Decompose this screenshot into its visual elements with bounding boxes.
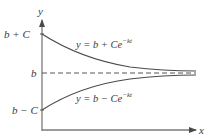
lower-equation-exponent: −kt [122,91,133,99]
label-b: b [31,67,37,79]
y-axis-label: y [37,5,43,17]
label-b-minus-c: b − C [12,104,38,116]
x-axis-label: x [198,124,204,136]
lower-curve-equation: y = b − Ce−kt [75,91,133,104]
exponential-approach-diagram: y x b + C b b − C y = b + Ce−kt y = b − … [0,0,208,139]
label-b-plus-c: b + C [4,28,30,40]
upper-equation-base: y = b + Ce [75,39,123,50]
lower-equation-base: y = b − Ce [75,93,123,104]
upper-curve-equation: y = b + Ce−kt [75,37,133,50]
upper-equation-exponent: −kt [122,37,133,45]
